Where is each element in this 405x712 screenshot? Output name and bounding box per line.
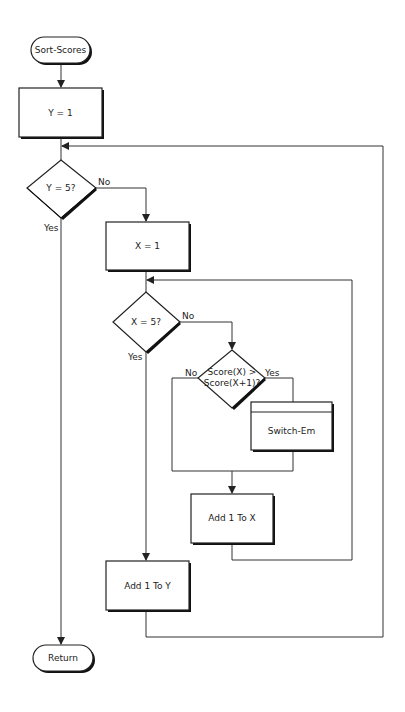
compare-decision: Score(X) > Score(X+1)? No Yes (185, 350, 280, 409)
compare-label-line1: Score(X) > (208, 367, 257, 377)
init-y-process: Y = 1 (19, 88, 104, 139)
switch-em-subroutine: Switch-Em (251, 402, 334, 452)
check-y-no-label: No (98, 177, 111, 187)
check-x-no-label: No (182, 311, 195, 321)
end-terminal: Return (33, 645, 95, 673)
start-terminal: Sort-Scores (31, 37, 92, 65)
check-y-decision: Y = 5? No Yes (27, 160, 111, 233)
check-x-label: X = 5? (131, 317, 161, 327)
check-x-yes-label: Yes (127, 352, 143, 362)
edge-check-x-no (180, 322, 232, 349)
connectors (61, 63, 383, 644)
inc-x-label: Add 1 To X (208, 513, 255, 523)
switch-em-label: Switch-Em (268, 426, 315, 436)
edge-compare-yes (265, 378, 293, 402)
init-y-label: Y = 1 (47, 108, 73, 118)
init-x-process: X = 1 (106, 222, 191, 272)
check-x-decision: X = 5? No Yes (113, 292, 195, 362)
end-label: Return (48, 653, 78, 663)
check-y-yes-label: Yes (43, 223, 59, 233)
init-x-label: X = 1 (135, 241, 160, 251)
compare-no-label: No (185, 368, 198, 378)
edge-check-y-no (96, 188, 146, 221)
start-label: Sort-Scores (35, 45, 87, 55)
flowchart-canvas: Sort-Scores Y = 1 Y = 5? No Yes X = 1 X … (0, 0, 405, 712)
check-y-label: Y = 5? (45, 183, 75, 193)
inc-y-process: Add 1 To Y (106, 561, 191, 612)
inc-x-process: Add 1 To X (191, 494, 275, 545)
compare-label-line2: Score(X+1)? (204, 378, 261, 388)
compare-yes-label: Yes (264, 368, 280, 378)
inc-y-label: Add 1 To Y (124, 581, 171, 591)
edge-switch-to-merge (232, 450, 293, 471)
